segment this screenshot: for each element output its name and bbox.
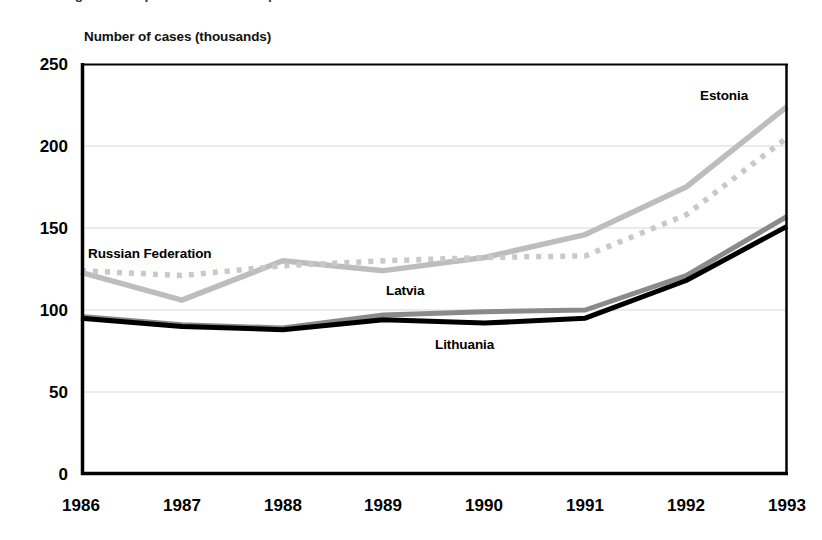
- data-lines: [81, 107, 787, 330]
- series-line-latvia: [81, 217, 787, 329]
- series-line-russian-federation: [81, 138, 787, 276]
- chart-figure: Figure 3. Reported cases of diphtheria i…: [0, 0, 822, 540]
- plot-frame: [81, 63, 788, 475]
- chart-plot-area: [0, 0, 822, 540]
- gridlines: [82, 146, 786, 392]
- series-line-estonia: [81, 107, 787, 301]
